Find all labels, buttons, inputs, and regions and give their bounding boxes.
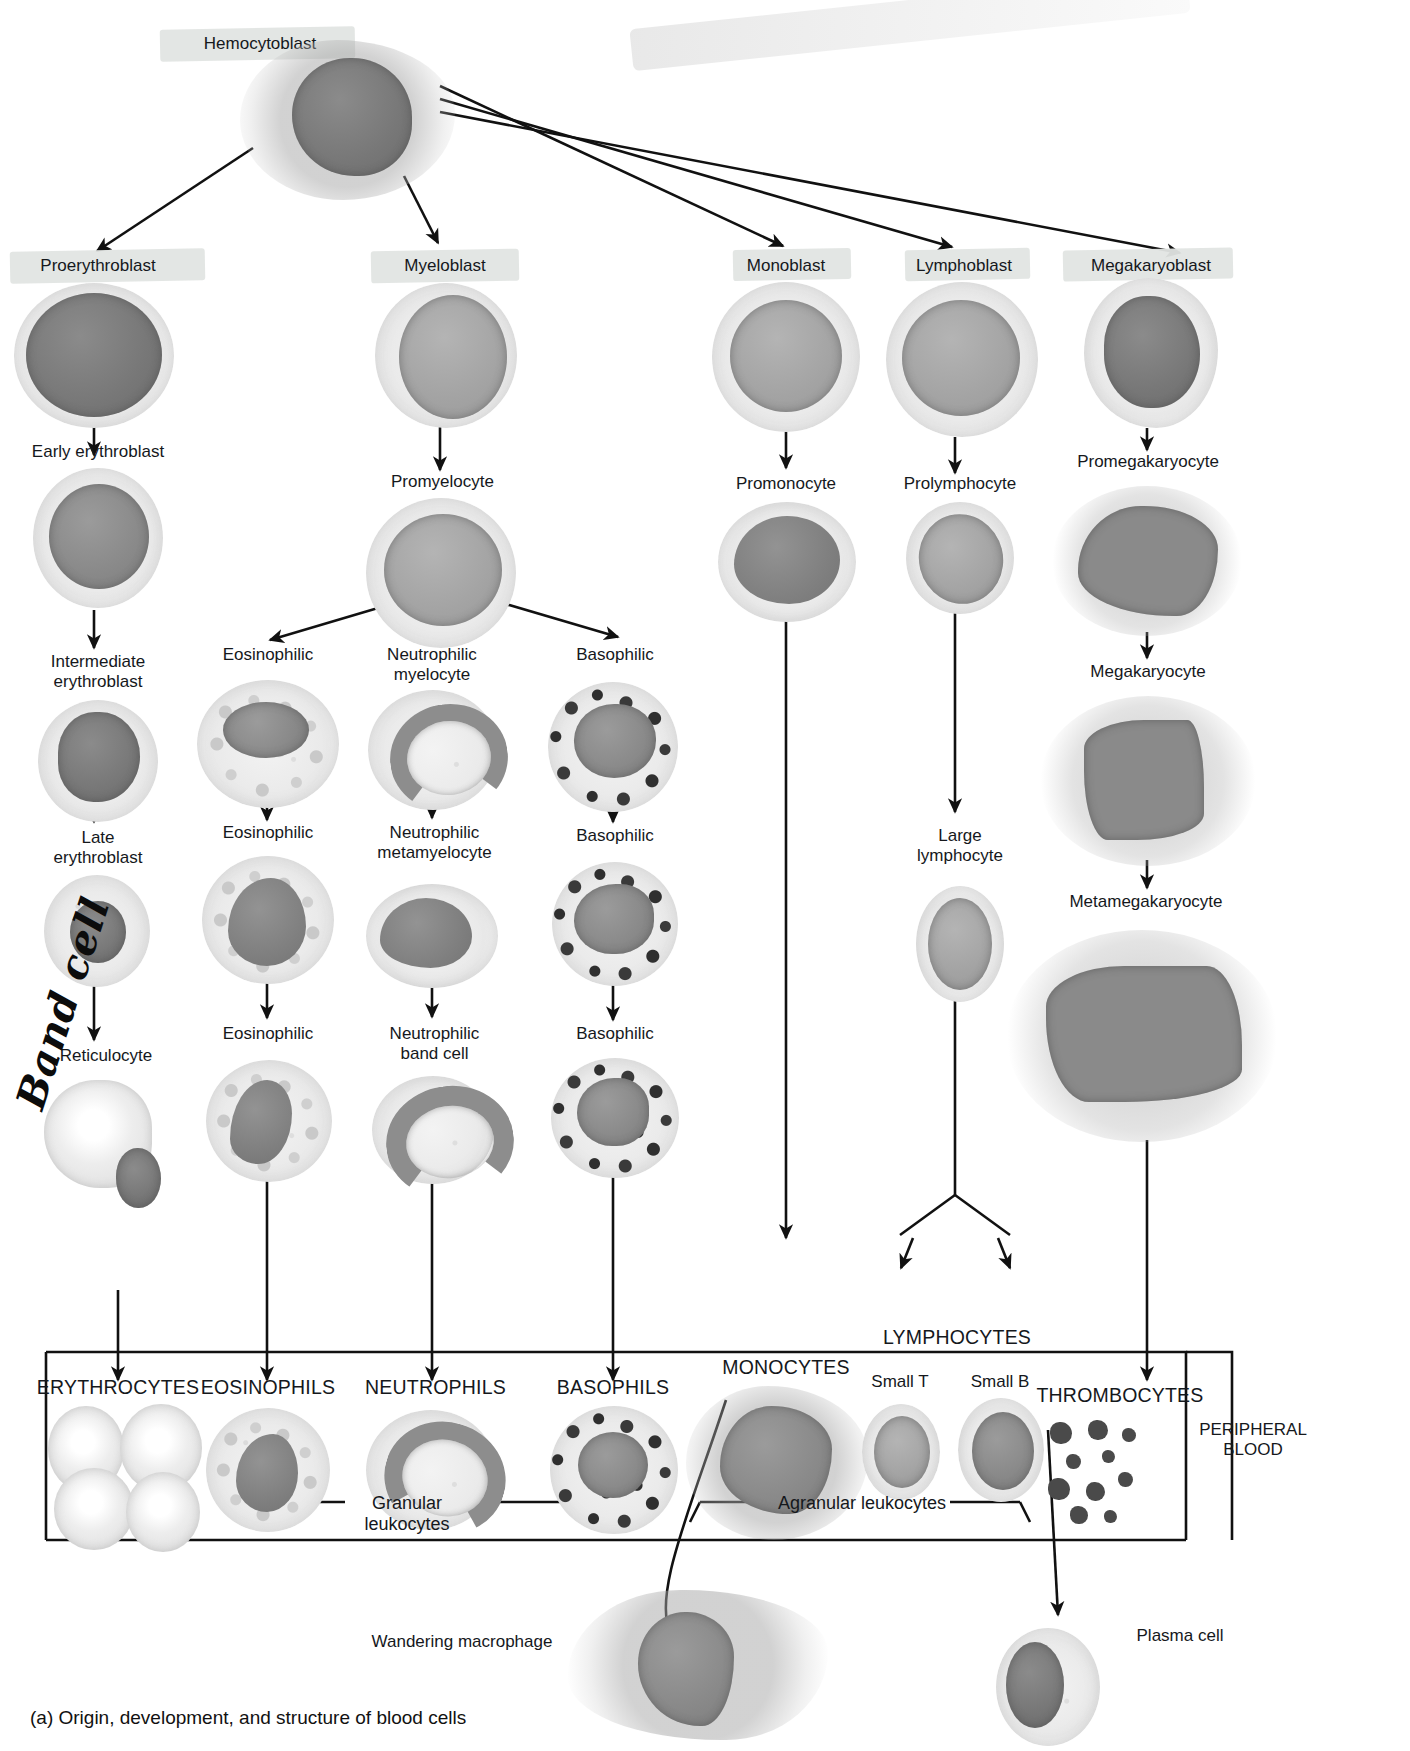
label-basophils: BASOPHILS bbox=[538, 1376, 688, 1399]
label-basophilic-metamyelocyte: Basophilic bbox=[540, 826, 690, 846]
cell-small-b-lymphocyte bbox=[958, 1398, 1044, 1502]
cell-megakaryoblast bbox=[1084, 278, 1218, 428]
cell-neutrophilic-myelocyte bbox=[368, 690, 498, 810]
cell-hemocytoblast bbox=[240, 40, 455, 200]
cell-extruded-nucleus bbox=[116, 1148, 161, 1208]
figure-canvas: Hemocytoblast Proerythroblast Early eryt… bbox=[0, 0, 1410, 1751]
label-promonocyte: Promonocyte bbox=[712, 474, 860, 494]
cell-promyelocyte bbox=[366, 498, 516, 648]
label-neutrophilic-metamyelocyte: Neutrophilic metamyelocyte bbox=[352, 823, 517, 863]
cell-early-erythroblast bbox=[33, 468, 163, 608]
figure-caption: (a) Origin, development, and structure o… bbox=[30, 1707, 466, 1729]
label-myeloblast: Myeloblast bbox=[370, 256, 520, 276]
cell-erythrocyte-4 bbox=[126, 1472, 200, 1552]
cell-monoblast bbox=[712, 282, 860, 432]
cell-prolymphocyte bbox=[906, 502, 1014, 614]
cell-myeloblast bbox=[375, 283, 517, 428]
label-megakaryocyte: Megakaryocyte bbox=[1048, 662, 1248, 682]
label-neutrophilic-band-cell: Neutrophilic band cell bbox=[352, 1024, 517, 1064]
cell-metamegakaryocyte bbox=[1006, 930, 1278, 1142]
cell-monocyte bbox=[686, 1386, 868, 1540]
cell-proerythroblast bbox=[14, 283, 174, 428]
cell-neutrophilic-metamyelocyte bbox=[366, 884, 498, 988]
label-neutrophils: NEUTROPHILS bbox=[358, 1376, 513, 1399]
cell-small-t-lymphocyte bbox=[862, 1404, 940, 1500]
label-metamegakaryocyte: Metamegakaryocyte bbox=[1030, 892, 1262, 912]
cell-eosinophilic-myelocyte bbox=[197, 680, 339, 808]
cell-erythrocyte-3 bbox=[54, 1468, 134, 1550]
label-promegakaryocyte: Promegakaryocyte bbox=[1048, 452, 1248, 472]
label-eosinophils: EOSINOPHILS bbox=[188, 1376, 348, 1399]
label-agranular-leukocytes: Agranular leukocytes bbox=[764, 1493, 960, 1514]
label-prolymphocyte: Prolymphocyte bbox=[884, 474, 1036, 494]
label-eosinophilic-band: Eosinophilic bbox=[192, 1024, 344, 1044]
cell-megakaryocyte bbox=[1040, 696, 1256, 866]
label-neutrophilic-myelocyte: Neutrophilic myelocyte bbox=[352, 645, 512, 685]
cell-lymphoblast bbox=[886, 282, 1038, 437]
cell-neutrophilic-band-cell bbox=[372, 1076, 494, 1184]
cell-large-lymphocyte bbox=[916, 886, 1004, 1002]
cell-promonocyte bbox=[718, 502, 856, 622]
cell-intermediate-erythroblast bbox=[38, 700, 158, 822]
label-lymphoblast: Lymphoblast bbox=[888, 256, 1040, 276]
label-eosinophilic-myelocyte: Eosinophilic bbox=[192, 645, 344, 665]
label-large-lymphocyte: Large lymphocyte bbox=[884, 826, 1036, 866]
cell-basophilic-myelocyte bbox=[548, 682, 678, 812]
label-basophilic-band: Basophilic bbox=[540, 1024, 690, 1044]
label-monocytes: MONOCYTES bbox=[700, 1356, 872, 1379]
label-late-erythroblast: Late erythroblast bbox=[8, 828, 188, 868]
label-erythrocytes: ERYTHROCYTES bbox=[30, 1376, 206, 1399]
label-monoblast: Monoblast bbox=[712, 256, 860, 276]
cell-thrombocytes-cluster bbox=[1046, 1420, 1166, 1530]
label-granular-leukocytes: Granular leukocytes bbox=[340, 1493, 474, 1535]
label-peripheral-blood: PERIPHERAL BLOOD bbox=[1168, 1420, 1338, 1460]
cell-wandering-macrophage bbox=[568, 1590, 828, 1740]
cell-promegakaryocyte bbox=[1052, 486, 1242, 636]
label-promyelocyte: Promyelocyte bbox=[355, 472, 530, 492]
label-early-erythroblast: Early erythroblast bbox=[8, 442, 188, 462]
label-thrombocytes: THROMBOCYTES bbox=[1020, 1384, 1220, 1407]
label-lymphocytes: LYMPHOCYTES bbox=[862, 1326, 1052, 1349]
cell-eosinophilic-band bbox=[206, 1060, 332, 1182]
label-intermediate-erythroblast: Intermediate erythroblast bbox=[8, 652, 188, 692]
label-proerythroblast: Proerythroblast bbox=[8, 256, 188, 276]
cell-basophilic-metamyelocyte bbox=[552, 862, 678, 986]
label-small-t: Small T bbox=[848, 1372, 952, 1392]
cell-basophil bbox=[550, 1406, 678, 1534]
cell-eosinophil bbox=[206, 1408, 330, 1532]
scan-artifact bbox=[629, 0, 1190, 71]
label-megakaryoblast: Megakaryoblast bbox=[1062, 256, 1240, 276]
cell-basophilic-band bbox=[551, 1058, 679, 1178]
label-plasma-cell: Plasma cell bbox=[1100, 1626, 1260, 1646]
label-basophilic-myelocyte: Basophilic bbox=[540, 645, 690, 665]
label-eosinophilic-metamyelocyte: Eosinophilic bbox=[192, 823, 344, 843]
cell-plasma-cell bbox=[996, 1628, 1100, 1746]
cell-eosinophilic-metamyelocyte bbox=[202, 856, 334, 984]
label-wandering-macrophage: Wandering macrophage bbox=[352, 1632, 572, 1652]
